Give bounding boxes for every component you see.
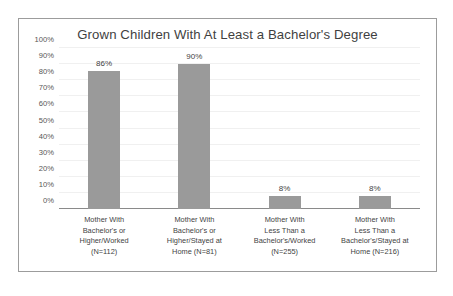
bar[interactable]: 8% <box>269 196 301 209</box>
bar[interactable]: 86% <box>88 71 120 209</box>
y-axis-tick-label: 10% <box>39 179 54 188</box>
x-axis-category-label: Mother WithBachelor's orHigher/Stayed at… <box>149 215 239 257</box>
x-axis-category-line: Mother With <box>241 215 329 226</box>
plot-area: 0%10%20%30%40%50%60%70%80%90%100% 86%90%… <box>59 48 420 209</box>
chart-container: Grown Children With At Least a Bachelor'… <box>18 18 437 272</box>
x-axis-category-label: Mother WithLess Than aBachelor's/Worked(… <box>240 215 330 257</box>
x-axis-category-line: Higher/Stayed at <box>150 236 238 247</box>
x-axis-category-line: Bachelor's or <box>150 226 238 237</box>
y-axis-tick-label: 80% <box>39 67 54 76</box>
x-axis-category-line: Mother With <box>60 215 148 226</box>
x-axis-category-line: (N=255) <box>241 247 329 258</box>
x-axis-category-label: Mother WithBachelor's orHigher/Worked(N=… <box>59 215 149 257</box>
bar-value-label: 90% <box>186 52 202 61</box>
chart-title: Grown Children With At Least a Bachelor'… <box>19 27 436 42</box>
bar-slot: 86% <box>59 48 149 209</box>
bar-value-label: 8% <box>369 184 381 193</box>
bar-slot: 90% <box>149 48 239 209</box>
x-axis-category-label: Mother WithLess Than aBachelor's/Stayed … <box>330 215 420 257</box>
y-axis-tick-label: 60% <box>39 99 54 108</box>
x-axis-category-line: Less Than a <box>331 226 419 237</box>
bar-slot: 8% <box>240 48 330 209</box>
x-axis-category-line: Bachelor's or <box>60 226 148 237</box>
x-axis-category-line: Home (N=216) <box>331 247 419 258</box>
bar-slot: 8% <box>330 48 420 209</box>
x-axis-category-line: Home (N=81) <box>150 247 238 258</box>
y-axis-tick-label: 50% <box>39 115 54 124</box>
bar-value-label: 8% <box>279 184 291 193</box>
bar[interactable]: 8% <box>359 196 391 209</box>
x-axis-category-line: Mother With <box>150 215 238 226</box>
bar[interactable]: 90% <box>178 64 210 209</box>
x-axis-category-line: (N=112) <box>60 247 148 258</box>
x-axis-category-line: Mother With <box>331 215 419 226</box>
y-axis-tick-label: 90% <box>39 51 54 60</box>
bar-value-label: 86% <box>96 59 112 68</box>
y-axis-tick-label: 40% <box>39 131 54 140</box>
x-axis-labels: Mother WithBachelor's orHigher/Worked(N=… <box>59 215 420 257</box>
x-axis-category-line: Bachelor's/Stayed at <box>331 236 419 247</box>
y-axis-tick-label: 30% <box>39 147 54 156</box>
y-axis-tick-label: 20% <box>39 163 54 172</box>
y-axis-tick-label: 70% <box>39 83 54 92</box>
bar-series: 86%90%8%8% <box>59 48 420 209</box>
y-axis-tick-label: 0% <box>43 196 54 205</box>
y-axis-tick-label: 100% <box>35 35 54 44</box>
x-axis-category-line: Less Than a <box>241 226 329 237</box>
x-axis-category-line: Higher/Worked <box>60 236 148 247</box>
x-axis-category-line: Bachelor's/Worked <box>241 236 329 247</box>
